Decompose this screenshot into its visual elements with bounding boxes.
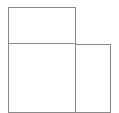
bottom-left-box [8, 43, 76, 113]
top-box [8, 7, 76, 44]
diagram-canvas [0, 0, 119, 113]
bottom-right-box [75, 44, 111, 113]
